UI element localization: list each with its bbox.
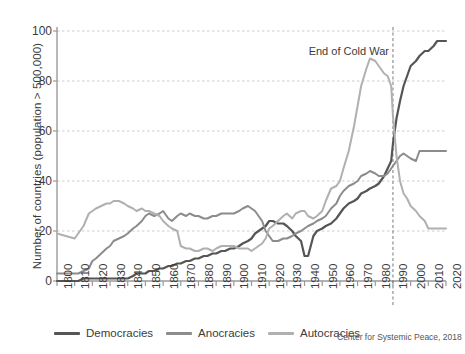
x-tick-label: 1960	[344, 264, 356, 289]
series-line-autocracies	[57, 59, 446, 252]
y-tick-label: 40	[39, 174, 52, 188]
legend-item-anocracies[interactable]: Anocracies	[166, 327, 255, 339]
x-tick-label: 1810	[79, 264, 91, 289]
x-tick-label: 1930	[291, 264, 303, 289]
x-tick-label: 2020	[451, 264, 463, 289]
legend-swatch-icon	[166, 332, 192, 335]
x-tick-label: 1870	[185, 264, 197, 289]
x-tick-label: 1990	[397, 264, 409, 289]
x-tick-label: 1910	[256, 264, 268, 289]
y-axis-tick-labels: 020406080100	[18, 0, 52, 354]
x-tick-label: 1890	[221, 264, 233, 289]
legend-swatch-icon	[268, 332, 294, 335]
legend-swatch-icon	[54, 332, 80, 335]
x-tick-label: 1850	[150, 264, 162, 289]
y-tick-label: 80	[39, 74, 52, 88]
chart-container: Number of countries (population > 500,00…	[0, 0, 465, 354]
y-tick-label: 20	[39, 224, 52, 238]
y-tick-label: 60	[39, 124, 52, 138]
x-tick-label: 1840	[132, 264, 144, 289]
legend-item-democracies[interactable]: Democracies	[54, 327, 153, 339]
annotation-end-of-cold-war: End of Cold War	[285, 45, 389, 57]
x-tick-label: 1920	[274, 264, 286, 289]
x-tick-label: 2000	[415, 264, 427, 289]
x-tick-label: 1980	[380, 264, 392, 289]
chart-credit: Center for Systemic Peace, 2018	[337, 332, 462, 342]
x-tick-label: 1900	[238, 264, 250, 289]
x-tick-label: 1830	[115, 264, 127, 289]
plot-area	[0, 0, 465, 354]
x-tick-label: 1820	[97, 264, 109, 289]
x-tick-label: 1880	[203, 264, 215, 289]
legend-label: Anocracies	[198, 327, 255, 339]
x-tick-label: 1950	[327, 264, 339, 289]
y-tick-label: 100	[32, 24, 52, 38]
y-tick-label: 0	[45, 274, 52, 288]
x-tick-label: 1860	[168, 264, 180, 289]
x-tick-label: 1800	[62, 264, 74, 289]
x-tick-label: 1940	[309, 264, 321, 289]
x-tick-label: 1970	[362, 264, 374, 289]
x-tick-label: 2010	[433, 264, 445, 289]
legend-label: Democracies	[86, 327, 153, 339]
